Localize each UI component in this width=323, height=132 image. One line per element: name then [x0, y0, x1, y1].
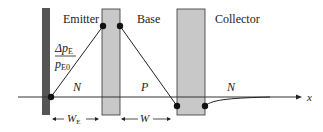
w-symbol: W — [140, 112, 150, 124]
point-emitter-contact — [48, 94, 54, 100]
point-emitter-edge — [100, 23, 106, 29]
y-label-numerator: Δp — [54, 41, 68, 55]
svg-text:WE: WE — [67, 112, 80, 126]
bc-depletion-region — [177, 9, 205, 115]
base-label: Base — [137, 12, 160, 26]
y-label-denominator-sub: E0 — [61, 63, 70, 72]
x-axis-label: x — [306, 91, 312, 103]
svg-text:ΔpE: ΔpE — [54, 41, 73, 56]
base-profile-line — [120, 26, 177, 106]
bjt-diagram: Emitter Base Collector N P N ΔpE pE0 x W… — [0, 0, 323, 132]
y-label-numerator-sub: E — [68, 47, 73, 56]
point-base-edge-left — [117, 23, 123, 29]
emitter-width-dimension: WE — [52, 112, 99, 126]
collector-label: Collector — [215, 12, 260, 26]
base-width-dimension: W — [121, 112, 171, 124]
we-sub: E — [76, 118, 80, 126]
x-axis-arrowhead — [296, 95, 302, 100]
point-collector-edge — [202, 103, 208, 109]
svg-text:pE0: pE0 — [54, 57, 70, 72]
emitter-label: Emitter — [63, 12, 99, 26]
base-doping-label: P — [140, 80, 149, 94]
collector-profile-curve — [205, 97, 270, 106]
y-label-denominator: p — [54, 57, 61, 71]
point-base-edge-right — [174, 103, 180, 109]
emitter-doping-label: N — [72, 80, 82, 94]
collector-doping-label: N — [226, 80, 236, 94]
